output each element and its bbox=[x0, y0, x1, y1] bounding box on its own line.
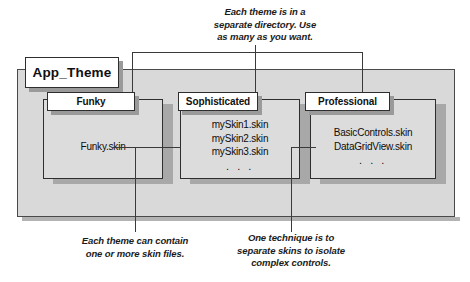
funky-tab: Funky bbox=[47, 92, 135, 111]
file-item: mySkin2.skin bbox=[180, 132, 300, 146]
caption-skin-files: Each theme can contain one or more skin … bbox=[55, 235, 215, 260]
connector-drop-professional bbox=[362, 52, 363, 92]
caption-themes-directory: Each theme is in a separate directory. U… bbox=[185, 6, 345, 44]
caption-line: one or more skin files. bbox=[55, 248, 215, 261]
professional-file-list: BasicControls.skin DataGridView.skin . .… bbox=[310, 126, 436, 168]
professional-tab: Professional bbox=[305, 92, 390, 111]
caption-line: One technique is to bbox=[212, 232, 370, 245]
professional-label: Professional bbox=[318, 96, 377, 107]
file-ellipsis: . . . bbox=[180, 159, 300, 174]
caption-line: complex controls. bbox=[212, 257, 370, 270]
caption-line: as many as you want. bbox=[185, 31, 345, 44]
file-item: DataGridView.skin bbox=[310, 140, 436, 154]
funky-label: Funky bbox=[77, 96, 106, 107]
connector-drop-funky bbox=[132, 52, 133, 92]
sophisticated-tab: Sophisticated bbox=[178, 92, 258, 111]
connector-separate-drop bbox=[291, 147, 292, 232]
caption-separate-skins: One technique is to separate skins to is… bbox=[212, 232, 370, 270]
caption-line: Each theme can contain bbox=[55, 235, 215, 248]
file-item: BasicControls.skin bbox=[310, 126, 436, 140]
connector-skinfile-drop bbox=[135, 147, 136, 232]
app-theme-tab: App_Theme bbox=[25, 57, 119, 88]
file-item: mySkin1.skin bbox=[180, 118, 300, 132]
connector-top-rail bbox=[132, 52, 363, 53]
caption-line: separate directory. Use bbox=[185, 19, 345, 32]
file-ellipsis: . . . bbox=[310, 153, 436, 168]
theme-directory-diagram: Each theme is in a separate directory. U… bbox=[0, 0, 470, 282]
caption-line: Each theme is in a bbox=[185, 6, 345, 19]
connector-drop-sophisticated bbox=[255, 52, 256, 92]
connector-skinfile-rail bbox=[113, 147, 181, 148]
outer-box-shadow bbox=[22, 217, 460, 221]
sophisticated-file-list: mySkin1.skin mySkin2.skin mySkin3.skin .… bbox=[180, 118, 300, 174]
sophisticated-label: Sophisticated bbox=[186, 96, 250, 107]
file-item: mySkin3.skin bbox=[180, 145, 300, 159]
caption-line: separate skins to isolate bbox=[212, 245, 370, 258]
connector-separate-rail bbox=[291, 147, 316, 148]
app-theme-label: App_Theme bbox=[32, 65, 111, 80]
